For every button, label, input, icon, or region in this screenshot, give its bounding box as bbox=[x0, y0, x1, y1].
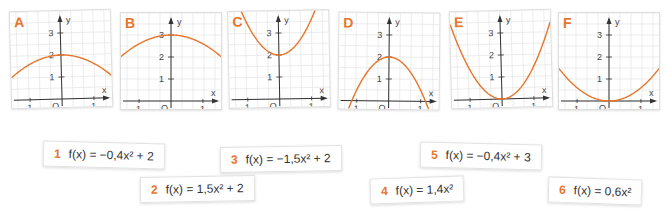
svg-text:y: y bbox=[506, 15, 511, 25]
svg-text:-1: -1 bbox=[351, 104, 359, 110]
graph-label: A bbox=[14, 14, 25, 30]
equation-card-3: 3f(x) = −1,5x² + 2 bbox=[220, 145, 342, 173]
svg-text:y: y bbox=[177, 17, 182, 27]
graph-card-d: yxO-11123D bbox=[338, 12, 441, 111]
parabola-graph: yxO-11123 bbox=[10, 10, 112, 109]
svg-text:y: y bbox=[615, 17, 620, 27]
svg-text:1: 1 bbox=[159, 74, 164, 84]
svg-text:2: 2 bbox=[597, 52, 602, 62]
svg-text:3: 3 bbox=[597, 30, 602, 40]
svg-text:x: x bbox=[649, 88, 654, 98]
svg-text:O: O bbox=[599, 103, 606, 109]
svg-text:-1: -1 bbox=[242, 103, 250, 108]
svg-text:x: x bbox=[429, 88, 434, 98]
equation-text: f(x) = 0,6x² bbox=[573, 183, 631, 199]
svg-text:1: 1 bbox=[377, 74, 382, 84]
svg-text:O: O bbox=[270, 101, 277, 108]
equation-card-6: 6f(x) = 0,6x² bbox=[548, 176, 643, 205]
svg-text:y: y bbox=[395, 17, 400, 27]
svg-text:1: 1 bbox=[638, 104, 643, 109]
equation-number: 4 bbox=[381, 184, 388, 198]
svg-text:3: 3 bbox=[488, 28, 493, 38]
graph-card-c: yxO-11123C bbox=[227, 9, 331, 109]
equation-number: 5 bbox=[431, 148, 438, 162]
svg-text:1: 1 bbox=[267, 72, 272, 82]
equation-text: f(x) = −0,4x² + 3 bbox=[446, 148, 531, 164]
parabola-graph: yxO-11123 bbox=[450, 10, 552, 109]
svg-text:y: y bbox=[284, 15, 289, 25]
svg-text:1: 1 bbox=[309, 101, 314, 107]
graph-card-a: yxO-11123A bbox=[9, 9, 114, 110]
svg-text:1: 1 bbox=[91, 101, 96, 108]
svg-text:1: 1 bbox=[597, 74, 602, 84]
graph-card-f: yxO-11123F bbox=[558, 12, 660, 110]
graph-card-e: yxO-11123E bbox=[449, 9, 554, 110]
svg-text:O: O bbox=[161, 103, 168, 109]
svg-text:x: x bbox=[211, 88, 216, 98]
graph-label: F bbox=[563, 15, 572, 31]
graph-label: C bbox=[232, 14, 242, 30]
svg-text:-1: -1 bbox=[133, 104, 141, 109]
svg-text:-1: -1 bbox=[571, 104, 579, 109]
equation-card-2: 2f(x) = 1,5x² + 2 bbox=[140, 175, 255, 203]
equation-number: 6 bbox=[559, 183, 566, 197]
svg-text:1: 1 bbox=[489, 72, 494, 82]
graph-label: B bbox=[125, 15, 135, 31]
svg-text:3: 3 bbox=[377, 30, 382, 40]
equation-text: f(x) = 1,5x² + 2 bbox=[166, 181, 244, 196]
svg-text:x: x bbox=[542, 85, 547, 95]
equation-number: 2 bbox=[151, 183, 158, 197]
equation-text: f(x) = −0,4x² + 2 bbox=[69, 147, 154, 163]
parabola-graph: yxO-11123 bbox=[339, 13, 440, 110]
svg-text:2: 2 bbox=[159, 52, 164, 62]
svg-text:3: 3 bbox=[48, 28, 53, 38]
svg-text:O: O bbox=[379, 103, 386, 110]
svg-text:2: 2 bbox=[489, 50, 494, 60]
equation-text: f(x) = −1,5x² + 2 bbox=[246, 151, 331, 166]
svg-text:1: 1 bbox=[49, 72, 54, 82]
equation-number: 1 bbox=[54, 147, 61, 161]
svg-text:-1: -1 bbox=[464, 103, 472, 109]
graph-card-b: yxO-11123B bbox=[120, 12, 222, 110]
svg-text:1: 1 bbox=[417, 104, 422, 109]
svg-text:1: 1 bbox=[200, 104, 205, 109]
graph-label: E bbox=[454, 14, 464, 30]
parabola-graph: yxO-11123 bbox=[121, 13, 221, 109]
equation-card-4: 4f(x) = 1,4x² bbox=[370, 175, 465, 204]
parabola-graph: yxO-11123 bbox=[559, 13, 659, 109]
graph-label: D bbox=[343, 15, 353, 31]
svg-text:O: O bbox=[52, 101, 59, 108]
svg-text:y: y bbox=[66, 15, 71, 25]
svg-text:3: 3 bbox=[266, 28, 271, 38]
svg-text:x: x bbox=[319, 85, 324, 95]
svg-text:x: x bbox=[102, 85, 107, 95]
svg-text:O: O bbox=[492, 101, 499, 108]
parabola-graph: yxO-11123 bbox=[228, 10, 330, 108]
svg-text:-1: -1 bbox=[24, 103, 32, 109]
equation-card-1: 1f(x) = −0,4x² + 2 bbox=[43, 140, 165, 169]
equation-card-5: 5f(x) = −0,4x² + 3 bbox=[420, 141, 542, 170]
svg-text:1: 1 bbox=[531, 101, 536, 108]
equation-text: f(x) = 1,4x² bbox=[395, 182, 453, 198]
equation-number: 3 bbox=[231, 153, 238, 167]
